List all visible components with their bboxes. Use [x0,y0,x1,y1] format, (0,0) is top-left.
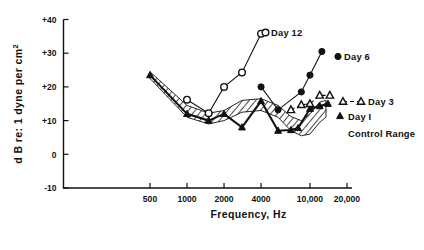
marker-open-triangle [326,91,333,98]
marker-open-triangle [298,101,305,108]
marker-open-triangle [339,98,346,105]
y-axis-title: d B re: 1 dyne per cm2 [11,44,24,164]
marker-filled-circle [319,48,325,54]
marker-filled-circle [258,84,264,90]
label-day-3: Day 3 [368,96,394,107]
label-control-range: Control Range [348,128,415,139]
y-tick-label: +20 [42,82,57,92]
label-day-12: Day 12 [271,27,302,38]
marker-filled-circle [275,107,281,113]
x-tick-label: 2000 [214,194,233,204]
marker-open-circle [184,96,191,103]
chart-figure: -100+10+20+30+4050010002000400010,00020,… [0,0,424,250]
marker-open-circle [262,29,269,36]
x-tick-label: 1000 [177,194,196,204]
marker-filled-triangle [337,112,344,118]
marker-filled-circle [298,89,304,95]
y-tick-label: +10 [42,116,57,126]
y-tick-label: -10 [44,183,57,193]
data-series [147,30,334,133]
y-tick-label: +30 [42,48,57,58]
svg-text:d B re: 1 dyne per cm2: d B re: 1 dyne per cm2 [11,44,24,164]
x-axis-title: Frequency, Hz [210,208,286,220]
x-tick-label: 10,000 [297,194,324,204]
marker-open-triangle [357,98,364,105]
audiogram-chart: -100+10+20+30+4050010002000400010,00020,… [0,0,424,250]
marker-filled-circle [307,72,313,78]
marker-open-triangle [287,106,294,113]
marker-open-circle [239,69,246,76]
label-day-1: Day I [348,111,371,122]
y-tick-label: 0 [52,150,57,160]
marker-open-triangle [316,91,323,98]
x-tick-label: 20,000 [334,194,361,204]
y-tick-label: +40 [42,15,57,25]
marker-open-circle [221,84,228,91]
label-day-6: Day 6 [344,51,370,62]
x-tick-label: 500 [143,194,158,204]
x-tick-label: 4000 [251,194,270,204]
marker-open-circle [205,110,212,117]
marker-filled-circle [335,53,341,59]
